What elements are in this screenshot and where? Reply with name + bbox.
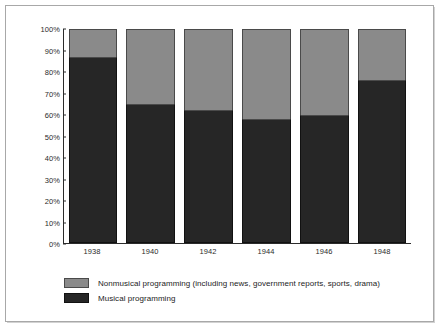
y-axis-tick-label: 20% xyxy=(45,197,60,206)
y-axis-tick-label: 0% xyxy=(49,240,60,249)
chart-figure: 0%10%20%30%40%50%60%70%80%90%100% 193819… xyxy=(0,0,440,328)
legend-swatch-musical xyxy=(64,293,89,303)
legend-label-musical: Musical programming xyxy=(98,294,175,303)
bar-slot xyxy=(122,29,180,243)
y-axis-tick-label: 80% xyxy=(45,68,60,77)
bar-segment-musical[interactable] xyxy=(184,110,233,243)
plot-area xyxy=(63,29,411,244)
y-axis-tick-label: 70% xyxy=(45,89,60,98)
bar-segment-nonmusical[interactable] xyxy=(184,29,233,110)
bar-segment-musical[interactable] xyxy=(69,57,118,243)
y-axis-tick-mark xyxy=(63,179,66,180)
bar-segment-nonmusical[interactable] xyxy=(69,29,118,57)
bar-group xyxy=(64,29,411,243)
y-axis-tick-label: 100% xyxy=(40,25,60,34)
bar-segment-musical[interactable] xyxy=(242,119,291,243)
bar-segment-nonmusical[interactable] xyxy=(242,29,291,119)
x-axis-tick-label: 1944 xyxy=(237,247,295,261)
x-axis-tick-label: 1948 xyxy=(353,247,411,261)
y-axis-tick-mark xyxy=(63,115,66,116)
y-axis-tick-mark xyxy=(63,222,66,223)
figure-frame: 0%10%20%30%40%50%60%70%80%90%100% 193819… xyxy=(5,5,434,322)
y-axis-tick-mark xyxy=(63,201,66,202)
stacked-bar[interactable] xyxy=(300,29,349,243)
y-axis-tick-mark xyxy=(63,244,66,245)
x-axis-tick-label: 1938 xyxy=(63,247,121,261)
x-axis-tick-label: 1940 xyxy=(121,247,179,261)
legend-swatch-nonmusical xyxy=(64,278,89,288)
bar-segment-nonmusical[interactable] xyxy=(358,29,407,80)
y-axis-tick-mark xyxy=(63,136,66,137)
bar-slot xyxy=(353,29,411,243)
bar-segment-nonmusical[interactable] xyxy=(126,29,175,104)
y-axis-tick-mark xyxy=(63,29,66,30)
x-axis-tick-label: 1942 xyxy=(179,247,237,261)
legend-label-nonmusical: Nonmusical programming (including news, … xyxy=(98,279,380,288)
bar-segment-nonmusical[interactable] xyxy=(300,29,349,115)
bar-segment-musical[interactable] xyxy=(358,80,407,243)
y-axis-tick-label: 90% xyxy=(45,46,60,55)
x-axis-tick-label: 1946 xyxy=(295,247,353,261)
y-axis-tick-mark xyxy=(63,72,66,73)
y-axis-tick-mark xyxy=(63,50,66,51)
y-axis-tick-label: 40% xyxy=(45,154,60,163)
stacked-bar[interactable] xyxy=(358,29,407,243)
x-axis: 193819401942194419461948 xyxy=(63,247,411,261)
stacked-bar[interactable] xyxy=(242,29,291,243)
legend-item-nonmusical: Nonmusical programming (including news, … xyxy=(64,278,414,288)
y-axis-tick-mark xyxy=(63,93,66,94)
stacked-bar[interactable] xyxy=(184,29,233,243)
bar-segment-musical[interactable] xyxy=(126,104,175,243)
bar-slot xyxy=(237,29,295,243)
y-axis-tick-label: 10% xyxy=(45,218,60,227)
bar-slot xyxy=(64,29,122,243)
y-axis: 0%10%20%30%40%50%60%70%80%90%100% xyxy=(24,29,60,244)
y-axis-tick-mark xyxy=(63,158,66,159)
y-axis-tick-label: 60% xyxy=(45,111,60,120)
y-axis-tick-label: 30% xyxy=(45,175,60,184)
bar-segment-musical[interactable] xyxy=(300,115,349,243)
bar-slot xyxy=(295,29,353,243)
chart-legend: Nonmusical programming (including news, … xyxy=(64,278,414,308)
bar-slot xyxy=(180,29,238,243)
y-axis-tick-label: 50% xyxy=(45,132,60,141)
legend-item-musical: Musical programming xyxy=(64,293,414,303)
stacked-bar[interactable] xyxy=(69,29,118,243)
stacked-bar[interactable] xyxy=(126,29,175,243)
